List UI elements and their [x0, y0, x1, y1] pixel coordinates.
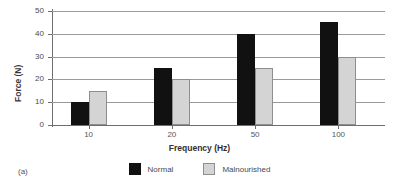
- y-tick-label-10: 10: [26, 97, 44, 106]
- bar-normal-50hz: [237, 34, 255, 125]
- y-tick-label-50: 50: [26, 6, 44, 15]
- legend-item-malnourished: Malnourished: [203, 163, 270, 175]
- bar-malnourished-50hz: [255, 68, 273, 125]
- y-tick-mark-0: [48, 125, 52, 126]
- x-tick-mark-100: [338, 125, 339, 129]
- x-tick-mark-50: [255, 125, 256, 129]
- legend-label-malnourished: Malnourished: [222, 165, 270, 174]
- x-tick-mark-20: [172, 125, 173, 129]
- x-tick-label-10: 10: [84, 130, 93, 139]
- legend-swatch-malnourished: [203, 163, 215, 175]
- y-tick-label-20: 20: [26, 74, 44, 83]
- figure-panel-a: Force (N) 01020304050 102050100 Frequenc…: [0, 0, 399, 190]
- x-tick-label-20: 20: [167, 130, 176, 139]
- y-tick-label-0: 0: [26, 120, 44, 129]
- x-axis-title: Frequency (Hz): [0, 143, 399, 153]
- legend: NormalMalnourished: [0, 163, 399, 175]
- bar-malnourished-100hz: [338, 57, 356, 125]
- y-axis-title-wrapper: Force (N): [2, 40, 16, 104]
- legend-label-normal: Normal: [148, 165, 174, 174]
- bar-malnourished-20hz: [172, 79, 190, 125]
- x-tick-label-50: 50: [251, 130, 260, 139]
- legend-item-normal: Normal: [129, 163, 174, 175]
- bars-container: [52, 11, 385, 125]
- bar-normal-100hz: [320, 22, 338, 125]
- y-tick-label-40: 40: [26, 29, 44, 38]
- x-tick-mark-10: [89, 125, 90, 129]
- x-tick-label-100: 100: [332, 130, 345, 139]
- y-tick-label-30: 30: [26, 52, 44, 61]
- panel-label: (a): [18, 167, 28, 176]
- bar-normal-10hz: [71, 102, 89, 125]
- y-axis-title: Force (N): [13, 65, 23, 102]
- legend-swatch-normal: [129, 163, 141, 175]
- x-axis-line: [52, 125, 385, 126]
- bar-malnourished-10hz: [89, 91, 107, 125]
- bar-normal-20hz: [154, 68, 172, 125]
